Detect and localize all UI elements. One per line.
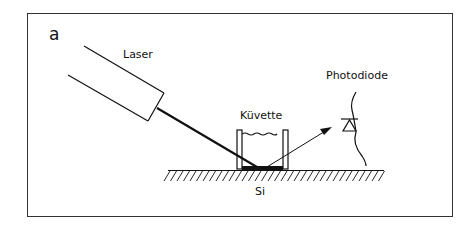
photodiode-icon xyxy=(341,92,366,166)
arrow-head-icon xyxy=(320,127,332,135)
cuvette-label: Küvette xyxy=(240,109,282,122)
setup-diagram xyxy=(0,0,474,228)
substrate-label: Si xyxy=(255,185,265,198)
cuvette-icon xyxy=(237,130,288,169)
photodiode-label: Photodiode xyxy=(326,69,388,82)
substrate-hatch xyxy=(164,171,385,182)
laser-label: Laser xyxy=(123,48,153,61)
panel-label: a xyxy=(49,24,59,44)
